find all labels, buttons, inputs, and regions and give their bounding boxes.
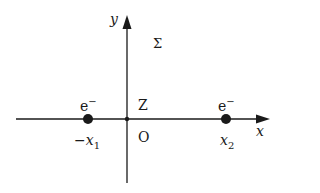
electron-1-label: e− <box>80 97 97 113</box>
electron-1-position: −x1 <box>74 133 100 151</box>
electron-2-dot <box>221 114 231 124</box>
nucleus-label: Z <box>138 98 148 112</box>
region-label: Σ <box>153 37 162 50</box>
origin-point <box>125 117 129 121</box>
electron-2-position: x2 <box>220 133 234 151</box>
y-axis-label: y <box>110 12 118 26</box>
y-axis-arrowhead <box>123 15 132 29</box>
electron-2-label: e− <box>218 97 235 113</box>
x-axis-label: x <box>256 124 264 138</box>
electron-1-dot <box>83 114 93 124</box>
origin-label: O <box>138 130 149 144</box>
